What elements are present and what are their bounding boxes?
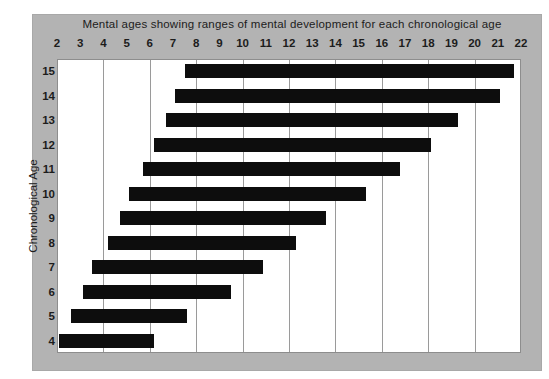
- x-tick-label-13: 13: [306, 37, 319, 49]
- gridline-18: [428, 59, 429, 353]
- y-tick-label-6: 6: [49, 286, 55, 298]
- x-tick-label-8: 8: [193, 37, 199, 49]
- bar-chronological-age-9: [120, 211, 326, 225]
- bar-chronological-age-10: [129, 187, 366, 201]
- y-tick-label-5: 5: [49, 310, 55, 322]
- bar-chronological-age-12: [154, 138, 430, 152]
- bar-chronological-age-14: [175, 89, 500, 103]
- x-tick-label-15: 15: [352, 37, 365, 49]
- y-tick-label-13: 13: [42, 114, 55, 126]
- x-tick-label-5: 5: [123, 37, 129, 49]
- x-tick-label-14: 14: [329, 37, 342, 49]
- x-tick-label-10: 10: [236, 37, 249, 49]
- gridline-10: [243, 59, 244, 353]
- x-tick-label-17: 17: [399, 37, 412, 49]
- gridline-14: [335, 59, 336, 353]
- plot-area: [57, 59, 521, 353]
- gridline-16: [382, 59, 383, 353]
- x-tick-label-22: 22: [515, 37, 528, 49]
- gridline-12: [289, 59, 290, 353]
- x-tick-label-6: 6: [147, 37, 153, 49]
- y-tick-label-15: 15: [42, 65, 55, 77]
- bar-chronological-age-8: [108, 236, 296, 250]
- bar-chronological-age-7: [92, 260, 264, 274]
- x-axis-tick-labels: 2345678910111213141516171819202122: [57, 37, 521, 55]
- x-tick-label-19: 19: [445, 37, 458, 49]
- y-tick-label-10: 10: [42, 188, 55, 200]
- bar-chronological-age-11: [143, 162, 401, 176]
- bar-chronological-age-5: [71, 309, 187, 323]
- x-tick-label-11: 11: [260, 37, 272, 49]
- y-tick-label-7: 7: [49, 261, 55, 273]
- y-tick-label-8: 8: [49, 237, 55, 249]
- gridline-8: [196, 59, 197, 353]
- y-axis-tick-labels: 151413121110987654: [28, 59, 55, 353]
- y-tick-label-12: 12: [42, 139, 55, 151]
- x-tick-label-9: 9: [216, 37, 222, 49]
- x-tick-label-20: 20: [468, 37, 481, 49]
- x-tick-label-18: 18: [422, 37, 435, 49]
- x-tick-label-3: 3: [77, 37, 83, 49]
- gridline-20: [475, 59, 476, 353]
- y-tick-label-14: 14: [42, 90, 55, 102]
- x-tick-label-4: 4: [100, 37, 106, 49]
- y-tick-label-11: 11: [43, 163, 55, 175]
- x-tick-label-16: 16: [375, 37, 388, 49]
- bar-chronological-age-4: [59, 334, 154, 348]
- bar-chronological-age-13: [166, 113, 458, 127]
- bar-chronological-age-6: [83, 285, 231, 299]
- x-tick-label-2: 2: [54, 37, 60, 49]
- y-tick-label-4: 4: [49, 335, 55, 347]
- chart-screenshot: Mental ages showing ranges of mental dev…: [0, 0, 549, 379]
- y-tick-label-9: 9: [49, 212, 55, 224]
- x-tick-label-21: 21: [491, 37, 504, 49]
- x-tick-label-12: 12: [283, 37, 296, 49]
- chart-title: Mental ages showing ranges of mental dev…: [57, 18, 527, 30]
- bar-chronological-age-15: [185, 64, 514, 78]
- x-tick-label-7: 7: [170, 37, 176, 49]
